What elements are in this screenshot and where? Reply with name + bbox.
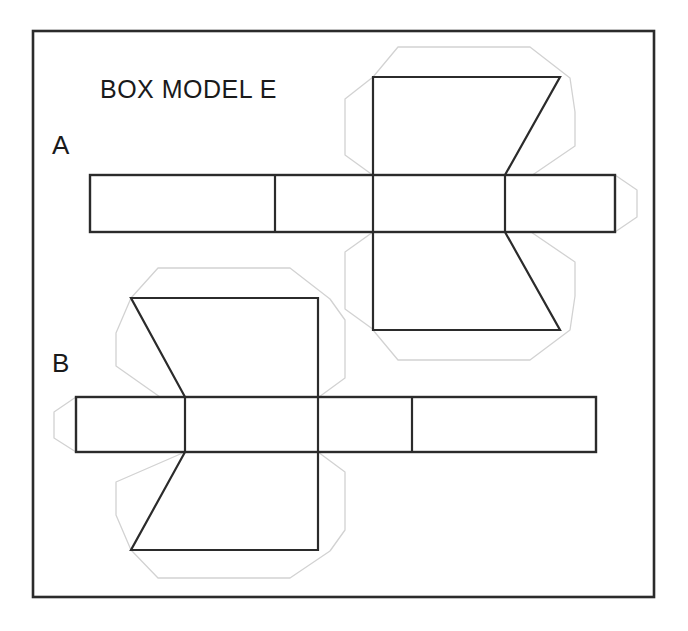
guide-b-bottom-right (318, 452, 345, 551)
guide-b-end-tab (54, 397, 76, 452)
figure-a-top-flap (373, 77, 560, 175)
guide-a-bottom-left (345, 232, 374, 330)
figure-a-strip (90, 175, 615, 232)
guide-a-top-upper (373, 47, 575, 176)
figure-a-bottom-flap (373, 232, 560, 330)
figure-b-group (54, 268, 596, 578)
guide-a-bottom-lower (373, 232, 575, 360)
guide-b-top-upper (131, 268, 345, 397)
figure-a-label: A (52, 130, 70, 160)
outer-border (33, 31, 654, 597)
figure-b-bottom-flap (131, 452, 318, 550)
guide-a-end-tab (615, 175, 637, 232)
figure-b-label: B (52, 348, 69, 378)
figure-b-top-flap (131, 298, 318, 397)
figure-b-strip (76, 397, 596, 452)
net-diagram-svg: BOX MODEL E A B (0, 0, 688, 631)
guide-a-top-left (345, 77, 374, 176)
page-title: BOX MODEL E (100, 75, 277, 103)
box-model-diagram: BOX MODEL E A B (0, 0, 688, 631)
guide-b-bottom-lower (116, 452, 330, 578)
